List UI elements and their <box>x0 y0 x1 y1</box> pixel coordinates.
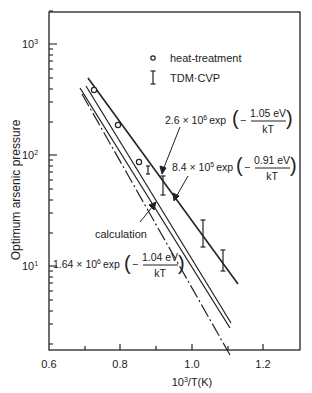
x-axis-tick-labels: 0.6 0.8 1.0 1.2 <box>41 358 270 370</box>
svg-text:8.4 × 105exp: 8.4 × 105exp <box>172 161 233 173</box>
svg-text:1.64 × 106exp: 1.64 × 106exp <box>53 258 120 270</box>
svg-text:kT: kT <box>154 267 166 279</box>
x-axis-label: 103/T(K) <box>172 376 213 388</box>
legend-label-heat-treatment: heat-treatment <box>170 52 242 64</box>
svg-text:−: − <box>240 114 246 126</box>
legend: heat-treatment TDM·CVP <box>151 52 242 84</box>
data-point <box>136 159 141 164</box>
y-tick-label: 101 <box>22 260 38 272</box>
equation-0.91eV: 8.4 × 105exp ( − 0.91 eV kT ) <box>172 154 297 182</box>
data-point <box>115 122 120 127</box>
errorbar <box>146 166 150 174</box>
svg-text:kT: kT <box>266 170 278 182</box>
svg-text:): ) <box>290 154 297 176</box>
svg-text:(: ( <box>232 107 239 129</box>
svg-text:1.05 eV: 1.05 eV <box>250 107 286 119</box>
legend-errorbar-marker-icon <box>151 71 156 84</box>
x-tick-label: 1.2 <box>255 358 270 370</box>
equation-1.04eV: 1.64 × 106exp ( − 1.04 eV kT ) <box>53 251 185 279</box>
y-tick-label: 102 <box>22 149 38 161</box>
svg-text:kT: kT <box>262 123 274 135</box>
svg-text:(: ( <box>236 154 243 176</box>
equation-1.05eV: 2.6 × 106exp ( − 1.05 eV kT ) <box>165 107 293 135</box>
x-tick-label: 0.6 <box>41 358 56 370</box>
y-axis-ticks <box>49 11 57 344</box>
data-point <box>91 87 96 92</box>
legend-label-tdm-cvp: TDM·CVP <box>170 72 220 84</box>
y-tick-label: 103 <box>22 38 38 50</box>
svg-text:2.6 × 106exp: 2.6 × 106exp <box>165 114 226 126</box>
svg-text:1.04 eV: 1.04 eV <box>142 251 178 263</box>
calculation-line <box>82 94 230 355</box>
svg-text:−: − <box>132 258 138 270</box>
legend-circle-marker-icon <box>151 56 155 60</box>
svg-text:): ) <box>286 107 293 129</box>
x-tick-label: 0.8 <box>112 358 127 370</box>
svg-text:0.91 eV: 0.91 eV <box>254 154 290 166</box>
svg-text:−: − <box>244 161 250 173</box>
x-axis-ticks <box>85 344 263 350</box>
y-axis-tick-labels: 103 102 101 <box>22 38 38 272</box>
x-tick-label: 1.0 <box>184 358 199 370</box>
chart-canvas: 0.6 0.8 1.0 1.2 103/T(K) <box>0 0 312 393</box>
svg-text:): ) <box>178 252 185 274</box>
y-axis-label: Optimum arsenic pressure <box>9 119 23 260</box>
heat-treatment-points <box>91 87 141 164</box>
svg-text:(: ( <box>124 252 131 274</box>
calculation-label: calculation <box>95 228 147 240</box>
